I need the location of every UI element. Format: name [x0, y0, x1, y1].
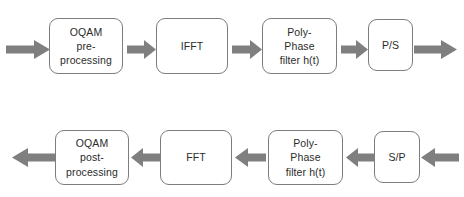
- tx-arrow-oqam-to-ifft: [127, 40, 156, 59]
- rx-input-arrow: [421, 148, 459, 167]
- block-parallel-to-serial[interactable]: P/S: [368, 19, 413, 71]
- tx-arrow-polyphase-to-ps: [341, 40, 368, 59]
- block-oqam-post-processing[interactable]: OQAM post- processing: [55, 130, 129, 185]
- block-oqam-pre-processing[interactable]: OQAM pre- processing: [49, 18, 123, 74]
- rx-arrow-polyphase-to-fft: [235, 148, 266, 167]
- block-diagram: OQAM pre- processing IFFT Poly- Phase fi…: [0, 0, 464, 197]
- block-ifft[interactable]: IFFT: [156, 18, 228, 74]
- rx-arrow-sp-to-polyphase: [346, 148, 374, 167]
- rx-output-arrow: [12, 148, 55, 167]
- block-poly-phase-filter-rx[interactable]: Poly- Phase filter h(t): [268, 130, 343, 185]
- rx-arrow-fft-to-oqam: [131, 148, 161, 167]
- block-fft[interactable]: FFT: [160, 130, 232, 185]
- block-serial-to-parallel[interactable]: S/P: [374, 131, 420, 183]
- tx-arrow-ifft-to-polyphase: [232, 40, 262, 59]
- tx-input-arrow: [6, 40, 50, 59]
- block-poly-phase-filter-tx[interactable]: Poly- Phase filter h(t): [262, 18, 337, 74]
- tx-output-arrow: [414, 40, 457, 59]
